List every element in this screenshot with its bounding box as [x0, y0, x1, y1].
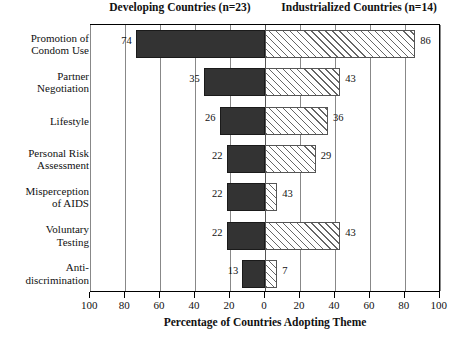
axis-tick-label: 60 [142, 299, 176, 311]
bar-developing [220, 107, 265, 135]
value-label-industrialized: 43 [282, 189, 306, 200]
value-label-developing: 22 [201, 228, 223, 239]
bar-industrialized [265, 260, 277, 288]
value-label-developing: 22 [201, 151, 223, 162]
value-label-industrialized: 7 [282, 266, 306, 277]
bar-industrialized [265, 183, 277, 211]
category-label: Personal Risk Assessment [5, 147, 89, 172]
axis-tick-label: 40 [177, 299, 211, 311]
plot-area: 748635432636222922432243137 [90, 24, 440, 292]
bar-developing [136, 30, 265, 58]
axis-tick [89, 292, 90, 298]
value-label-developing: 35 [178, 74, 200, 85]
bar-developing [227, 222, 265, 250]
bar-row: 2636 [91, 102, 439, 140]
axis-tick [229, 292, 230, 298]
category-label: Misperception of AIDS [5, 185, 89, 210]
axis-tick-label: 60 [352, 299, 386, 311]
axis-tick-label: 80 [387, 299, 421, 311]
axis-tick [124, 292, 125, 298]
category-label: Voluntary Testing [5, 223, 89, 248]
bar-developing [242, 260, 265, 288]
axis-tick-label: 100 [72, 299, 106, 311]
bar-row: 7486 [91, 25, 439, 63]
axis-tick-label: 20 [212, 299, 246, 311]
bar-industrialized [265, 30, 415, 58]
axis-tick [439, 292, 440, 298]
bar-developing [227, 183, 265, 211]
x-axis: 10080604020020406080100 [90, 292, 440, 293]
axis-tick [369, 292, 370, 298]
bar-row: 2243 [91, 217, 439, 255]
category-label: Promotion of Condom Use [5, 32, 89, 57]
axis-tick [404, 292, 405, 298]
value-label-developing: 74 [110, 36, 132, 47]
x-axis-title: Percentage of Countries Adopting Theme [90, 316, 440, 328]
right-group-header: Industrialized Countries (n=14) [266, 1, 452, 13]
axis-tick-label: 40 [317, 299, 351, 311]
axis-tick [334, 292, 335, 298]
axis-tick [194, 292, 195, 298]
diverging-bar-chart: Developing Countries (n=23) Industrializ… [0, 0, 455, 347]
bar-developing [204, 68, 265, 96]
axis-tick-label: 0 [247, 299, 281, 311]
bar-row: 2229 [91, 140, 439, 178]
bar-industrialized [265, 68, 340, 96]
value-label-industrialized: 43 [345, 74, 369, 85]
axis-tick-label: 100 [422, 299, 455, 311]
value-label-industrialized: 36 [333, 113, 357, 124]
axis-tick [264, 292, 265, 298]
value-label-industrialized: 86 [420, 36, 444, 47]
bar-row: 137 [91, 255, 439, 293]
axis-tick-label: 20 [282, 299, 316, 311]
bar-row: 2243 [91, 178, 439, 216]
bar-row: 3543 [91, 63, 439, 101]
bar-industrialized [265, 107, 328, 135]
axis-tick [299, 292, 300, 298]
value-label-industrialized: 43 [345, 228, 369, 239]
left-group-header: Developing Countries (n=23) [96, 1, 264, 13]
value-label-developing: 13 [216, 266, 238, 277]
category-label: Lifestyle [5, 115, 89, 128]
value-label-developing: 22 [201, 189, 223, 200]
category-label: Partner Negotiation [5, 70, 89, 95]
value-label-developing: 26 [194, 113, 216, 124]
bar-industrialized [265, 222, 340, 250]
value-label-industrialized: 29 [321, 151, 345, 162]
gridline [440, 25, 441, 291]
bar-industrialized [265, 145, 316, 173]
axis-tick [159, 292, 160, 298]
bar-developing [227, 145, 265, 173]
axis-tick-label: 80 [107, 299, 141, 311]
category-label: Anti- discrimination [5, 261, 89, 286]
